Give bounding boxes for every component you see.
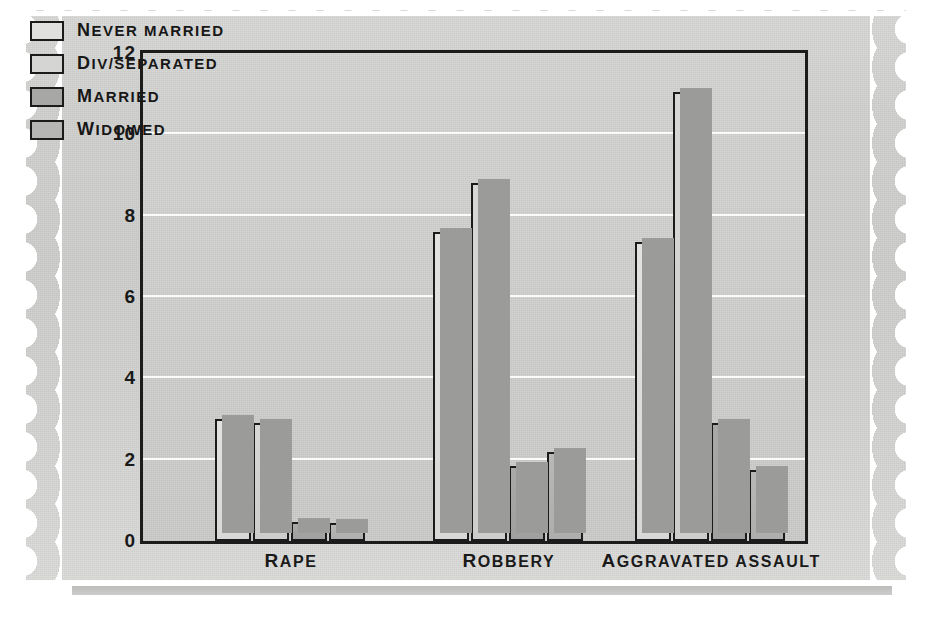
y-axis-tick-label: 6 xyxy=(100,286,136,308)
legend-label: DIV/SEPARATED xyxy=(77,53,218,74)
bar xyxy=(433,232,469,541)
bar-shadow xyxy=(298,518,330,533)
legend-swatch xyxy=(30,87,64,107)
paper-shadow xyxy=(72,586,892,595)
bar-shadow xyxy=(336,519,368,533)
y-axis-tick-label: 4 xyxy=(100,367,136,389)
bar-shadow xyxy=(260,419,292,533)
bar xyxy=(635,242,671,541)
legend-swatch xyxy=(30,21,64,41)
legend-label-rest: EVER MARRIED xyxy=(92,22,225,39)
bar-shadow xyxy=(478,179,510,533)
x-axis-category-label: RAPE xyxy=(265,550,318,572)
legend-item: MARRIED xyxy=(30,80,225,113)
x-label-initial: A xyxy=(602,550,617,571)
bar xyxy=(253,423,289,541)
x-label-rest: GGRAVATED ASSAULT xyxy=(617,553,821,570)
bar xyxy=(329,523,365,541)
bar xyxy=(547,452,583,541)
x-axis-category-label: ROBBERY xyxy=(463,550,556,572)
legend-swatch xyxy=(30,120,64,140)
legend-item: WIDOWED xyxy=(30,113,225,146)
bar-shadow xyxy=(516,462,548,533)
torn-edge-right xyxy=(870,10,912,580)
bar-shadow xyxy=(680,88,712,533)
bar-shadow xyxy=(718,419,750,533)
scanned-page: 024681012 RAPEROBBERYAGGRAVATED ASSAULT … xyxy=(0,0,947,617)
legend-label-rest: IDOWED xyxy=(96,121,167,138)
legend-label: MARRIED xyxy=(77,86,160,107)
bar-shadow xyxy=(222,415,254,533)
bar-shadow xyxy=(440,228,472,533)
y-axis-tick-label: 2 xyxy=(100,449,136,471)
bar xyxy=(749,470,785,541)
legend-label-initial: W xyxy=(77,119,96,139)
bar xyxy=(215,419,251,541)
legend-item: NEVER MARRIED xyxy=(30,14,225,47)
legend-label-initial: N xyxy=(77,20,92,40)
legend-swatch xyxy=(30,54,64,74)
legend-label: WIDOWED xyxy=(77,119,166,140)
legend-label-initial: D xyxy=(77,53,92,73)
legend: NEVER MARRIEDDIV/SEPARATEDMARRIEDWIDOWED xyxy=(30,14,225,146)
bar xyxy=(673,92,709,541)
bar xyxy=(471,183,507,541)
legend-label-rest: IV/SEPARATED xyxy=(92,55,219,72)
x-label-initial: R xyxy=(463,550,478,571)
legend-label-rest: ARRIED xyxy=(94,88,161,105)
y-axis-tick-label: 8 xyxy=(100,205,136,227)
x-label-initial: R xyxy=(265,550,280,571)
legend-item: DIV/SEPARATED xyxy=(30,47,225,80)
legend-label: NEVER MARRIED xyxy=(77,20,225,41)
y-axis-tick-label: 0 xyxy=(100,530,136,552)
x-label-rest: OBBERY xyxy=(478,553,555,570)
bar-shadow xyxy=(756,466,788,533)
bar-shadow xyxy=(642,238,674,533)
x-axis-category-label: AGGRAVATED ASSAULT xyxy=(602,550,821,572)
legend-label-initial: M xyxy=(77,86,94,106)
x-label-rest: APE xyxy=(280,553,318,570)
bar xyxy=(711,423,747,541)
bar xyxy=(509,466,545,541)
bar xyxy=(291,522,327,541)
bar-shadow xyxy=(554,448,586,533)
plot-area xyxy=(140,50,808,544)
